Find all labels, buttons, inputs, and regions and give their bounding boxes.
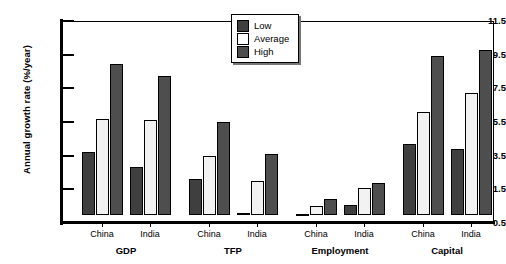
x-tick-mark <box>316 223 317 227</box>
legend: Low Average High <box>231 14 299 63</box>
bar <box>403 144 416 215</box>
legend-item-high: High <box>237 45 289 58</box>
x-label-group: Capital <box>392 246 502 256</box>
legend-item-average: Average <box>237 32 289 45</box>
legend-swatch-high-icon <box>237 46 249 58</box>
x-tick-mark <box>102 223 103 227</box>
bar <box>417 112 430 215</box>
x-label-country: India <box>120 230 180 239</box>
bar <box>265 154 278 215</box>
x-tick-mark <box>257 223 258 227</box>
x-tick-mark <box>471 223 472 227</box>
bar <box>203 156 216 215</box>
bar <box>130 167 143 214</box>
legend-label-average: Average <box>254 34 289 44</box>
bar <box>82 152 95 214</box>
bar <box>358 188 371 215</box>
bar <box>372 183 385 215</box>
x-label-group: Employment <box>285 246 395 256</box>
bar <box>296 214 309 216</box>
x-tick-mark <box>423 223 424 227</box>
bar <box>310 206 323 214</box>
bar <box>189 179 202 214</box>
legend-label-low: Low <box>254 21 271 31</box>
bar <box>96 119 109 215</box>
bar <box>465 93 478 214</box>
x-label-group: GDP <box>71 246 181 256</box>
bar <box>479 50 492 215</box>
bar <box>158 76 171 215</box>
x-tick-mark <box>364 223 365 227</box>
bar <box>344 205 357 215</box>
bar <box>251 181 264 215</box>
x-tick-mark <box>209 223 210 227</box>
legend-label-high: High <box>254 47 274 57</box>
legend-item-low: Low <box>237 19 289 32</box>
x-tick-mark <box>150 223 151 227</box>
x-label-group: TFP <box>178 246 288 256</box>
x-label-country: India <box>227 230 287 239</box>
bar <box>431 56 444 215</box>
bar-chart: Annual growth rate (%/year) 11.59.57.55.… <box>0 0 506 264</box>
bar <box>144 120 157 214</box>
x-label-country: India <box>334 230 394 239</box>
bar <box>110 64 123 215</box>
bar <box>324 199 337 214</box>
x-label-country: India <box>441 230 501 239</box>
bar <box>451 149 464 215</box>
y-axis-title: Annual growth rate (%/year) <box>21 20 32 200</box>
legend-swatch-average-icon <box>237 33 249 45</box>
bar <box>237 213 250 215</box>
bar <box>217 122 230 215</box>
legend-swatch-low-icon <box>237 20 249 32</box>
